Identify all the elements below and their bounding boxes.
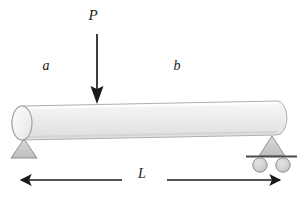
segment-b-label: b	[174, 58, 181, 73]
segment-a-label: a	[43, 58, 50, 73]
roller-right-icon	[276, 158, 290, 172]
beam-diagram-canvas: P a b L	[0, 0, 303, 198]
roller-support-group	[246, 136, 297, 172]
roller-support-triangle-icon	[259, 136, 285, 156]
span-length-label: L	[137, 166, 146, 181]
point-load-group	[91, 34, 104, 104]
beam-left-end-cap	[12, 106, 32, 140]
load-label: P	[87, 7, 97, 23]
beam-group	[12, 101, 287, 140]
pin-support-group	[11, 139, 37, 158]
beam-diagram-figure: P a b L	[0, 0, 303, 198]
pin-support-triangle-icon	[11, 139, 37, 158]
roller-left-icon	[253, 158, 267, 172]
